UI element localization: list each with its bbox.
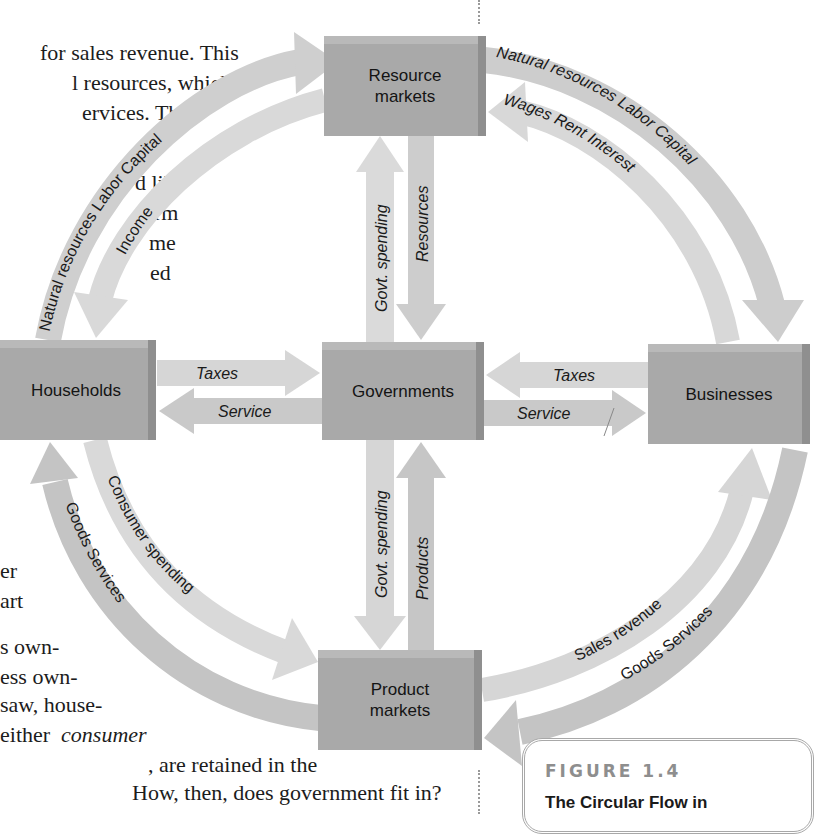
flow-label: Govt. spending [373, 490, 390, 598]
flow-label: Consumer spending [104, 473, 197, 596]
resource-markets-box: Resource markets [324, 36, 486, 136]
product-markets-box: Product markets [318, 650, 482, 750]
flow-label: Service [218, 403, 271, 420]
flow-label-text: Consumer spending [104, 473, 197, 596]
businesses-box: Businesses [648, 344, 810, 444]
flow-label: Govt. spending [373, 204, 390, 312]
figure-caption-box: FIGURE 1.4 The Circular Flow in [522, 738, 814, 834]
figure-label: FIGURE 1.4 [545, 761, 681, 781]
flow-label: Products [414, 537, 431, 600]
governments-box: Governments [322, 342, 484, 440]
flow-label: Taxes [196, 365, 238, 382]
flow-arrow-resource-to-hh [74, 100, 325, 338]
flow-arrow-consumer-spending [95, 440, 318, 680]
households-box: Households [0, 340, 156, 440]
flow-label: Resources [414, 186, 431, 262]
flow-arrow-hh-taxes [157, 350, 320, 396]
flow-arrow-sales-revenue [482, 448, 772, 690]
flow-arrow-biz-to-resource [488, 82, 728, 342]
flow-label: Service [517, 405, 570, 422]
figure-title: The Circular Flow in [545, 793, 707, 813]
flow-label: Taxes [553, 367, 595, 384]
